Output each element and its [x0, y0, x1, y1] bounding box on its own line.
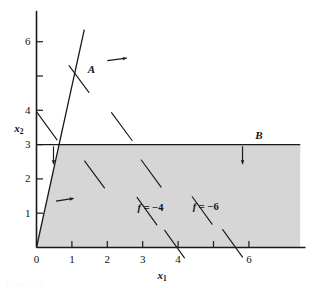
- y-tick-label-3: 3: [25, 139, 31, 150]
- figure-caption: Figure 2.1: [0, 280, 319, 288]
- x-tick-label-6: 6: [246, 254, 252, 265]
- y-tick-label-4: 4: [25, 105, 31, 116]
- y-axis-title: x2: [14, 123, 23, 136]
- constraint-label-B: B: [255, 130, 262, 141]
- contour-segment-2: [37, 113, 57, 140]
- x-tick-label-1: 1: [69, 254, 75, 265]
- plot-svg: [0, 0, 319, 288]
- contour-segment-1: [112, 113, 133, 141]
- x-tick-label-2: 2: [105, 254, 111, 265]
- constraint-label-A: A: [88, 64, 95, 75]
- figure-container: 01234612346x1x2ABf = −4f = −6 Figure 2.1: [0, 0, 319, 288]
- y-tick-label-6: 6: [25, 36, 31, 47]
- y-tick-label-1: 1: [25, 208, 31, 219]
- x-tick-label-4: 4: [175, 254, 181, 265]
- x-tick-label-0: 0: [34, 254, 40, 265]
- y-tick-label-2: 2: [25, 173, 31, 184]
- contour-value-label-0: f = −4: [138, 203, 164, 214]
- x-tick-label-3: 3: [140, 254, 146, 265]
- feasible-region-shading: [37, 145, 301, 248]
- contour-value-label-1: f = −6: [193, 202, 219, 213]
